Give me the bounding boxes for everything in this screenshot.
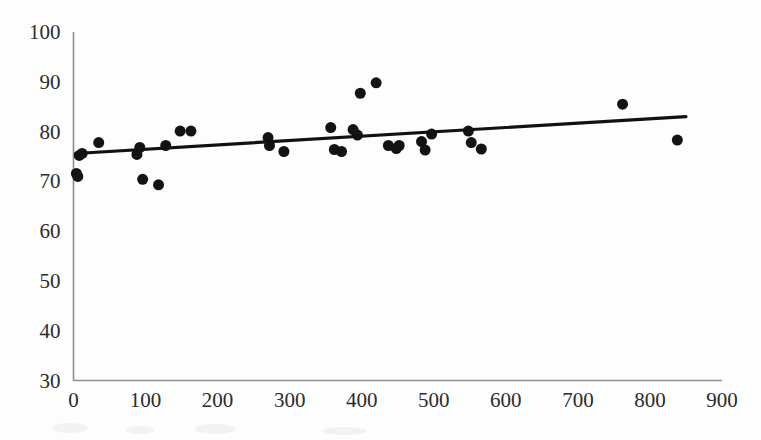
data-point	[137, 174, 148, 185]
data-point	[93, 137, 104, 148]
data-point	[617, 99, 628, 110]
data-point	[371, 77, 382, 88]
x-tick-label: 600	[490, 388, 522, 412]
data-point	[278, 146, 289, 157]
data-point	[153, 179, 164, 190]
data-point	[336, 146, 347, 157]
x-tick-label: 300	[274, 388, 306, 412]
x-axis-tick-labels: 0100200300400500600700800900	[68, 388, 738, 412]
y-tick-label: 40	[40, 319, 61, 343]
y-tick-label: 100	[29, 20, 61, 44]
data-point	[355, 88, 366, 99]
x-tick-label: 100	[130, 388, 162, 412]
y-tick-label: 70	[40, 169, 61, 193]
data-point	[466, 137, 477, 148]
y-tick-label: 50	[40, 269, 61, 293]
data-point	[672, 135, 683, 146]
x-tick-label: 900	[706, 388, 738, 412]
scatter-plot-figure: 30405060708090100 0100200300400500600700…	[0, 0, 761, 440]
x-tick-label: 0	[68, 388, 79, 412]
data-point	[72, 171, 83, 182]
axes-group	[73, 32, 722, 381]
y-tick-label: 60	[40, 219, 61, 243]
x-tick-label: 800	[634, 388, 666, 412]
data-point	[476, 144, 487, 155]
y-tick-label: 30	[40, 369, 61, 393]
plot-canvas: 30405060708090100 0100200300400500600700…	[0, 0, 761, 440]
y-tick-label: 90	[40, 70, 61, 94]
y-axis-tick-labels: 30405060708090100	[29, 20, 61, 393]
data-point	[175, 126, 186, 137]
data-point	[185, 126, 196, 137]
x-tick-label: 400	[346, 388, 378, 412]
data-point	[420, 144, 431, 155]
trend-line	[76, 117, 686, 154]
y-tick-label: 80	[40, 120, 61, 144]
x-tick-label: 700	[562, 388, 594, 412]
x-tick-label: 500	[418, 388, 450, 412]
x-tick-label: 200	[202, 388, 234, 412]
data-point	[394, 140, 405, 151]
scan-artifacts	[52, 423, 367, 435]
data-point	[325, 122, 336, 133]
